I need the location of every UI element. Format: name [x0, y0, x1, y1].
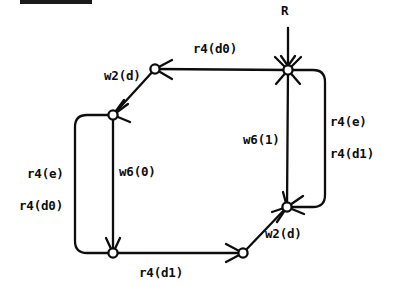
label-r4-d1-right: r4(d1) [330, 148, 374, 161]
node-top-left [150, 64, 159, 73]
edge-right-loop [287, 70, 325, 207]
label-w6-0: w6(0) [119, 166, 156, 179]
node-bottom-left [108, 248, 117, 257]
label-r4-e-right: r4(e) [330, 116, 367, 129]
label-entry-r: R [281, 5, 288, 18]
edge-r4-d0-top [155, 69, 288, 70]
label-w2-d-upper: w2(d) [104, 70, 141, 83]
label-r4-d1-bottom: r4(d1) [139, 267, 183, 280]
label-r4-d0-top: r4(d0) [193, 43, 237, 56]
diagram-canvas: R r4(d0) w2(d) w6(1) r4(e) r4(d1) r4(e) … [0, 0, 403, 292]
label-r4-d0-left: r4(d0) [19, 200, 63, 213]
node-mid-left [108, 110, 117, 119]
node-bottom-right [282, 202, 291, 211]
label-w6-1: w6(1) [243, 134, 280, 147]
node-bottom-mid [238, 248, 247, 257]
label-r4-e-left: r4(e) [27, 168, 64, 181]
edge-w6-1 [287, 70, 288, 207]
label-w2-d-lower: w2(d) [265, 228, 302, 241]
node-top-right [283, 65, 292, 74]
edge-left-loop [75, 115, 113, 253]
edges-group [75, 28, 325, 253]
